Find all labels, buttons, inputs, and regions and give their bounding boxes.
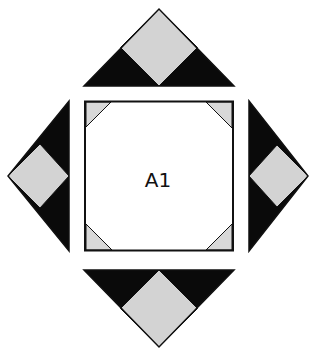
bottom-triangle-piece [84, 270, 234, 347]
left-triangle-piece [8, 101, 69, 251]
right-triangle-piece [249, 101, 308, 251]
top-triangle-piece [84, 9, 234, 86]
quilt-diagram: A1 [0, 0, 312, 354]
center-square-label: A1 [145, 168, 171, 192]
